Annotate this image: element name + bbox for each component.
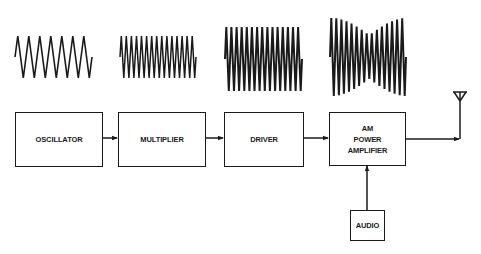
oscillator-label: OSCILLATOR [35,134,82,145]
waveform-multiplier [120,36,196,78]
antenna-icon [453,92,467,101]
am-transmitter-diagram: OSCILLATOR MULTIPLIER DRIVER AM POWER AM… [0,0,481,254]
driver-label: DRIVER [250,134,278,145]
amplifier-label-line-1: AM [362,123,373,134]
audio-block: AUDIO [350,210,385,241]
waveform-driver [225,27,302,91]
driver-block: DRIVER [224,112,304,167]
amplifier-label-line-3: AMPLIFIER [348,145,388,156]
amplifier-label-line-2: POWER [354,134,382,145]
oscillator-block: OSCILLATOR [15,112,103,167]
am-power-amplifier-block: AM POWER AMPLIFIER [329,112,406,166]
audio-label: AUDIO [356,220,380,231]
waveform-oscillator [15,36,92,78]
multiplier-label: MULTIPLIER [140,134,183,145]
waveform-am-modulated [330,18,406,96]
multiplier-block: MULTIPLIER [118,112,206,167]
